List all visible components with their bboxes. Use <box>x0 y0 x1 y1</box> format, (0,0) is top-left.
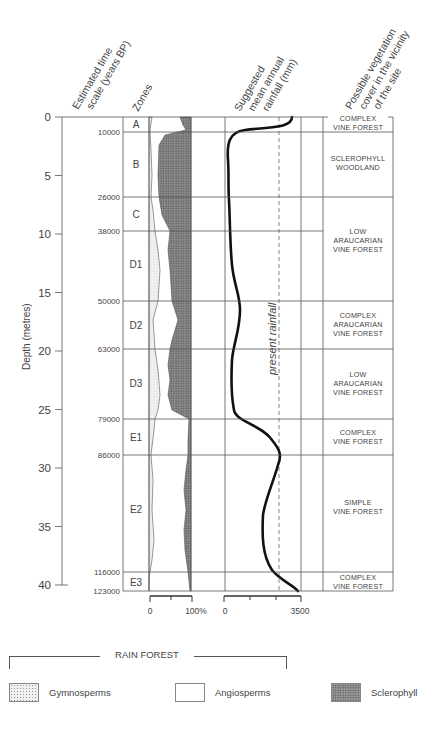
svg-text:5: 5 <box>45 170 51 182</box>
svg-text:79000: 79000 <box>98 415 121 424</box>
svg-text:40: 40 <box>38 579 51 591</box>
rain-forest-title: RAIN FOREST <box>100 649 194 660</box>
legend-item-angiosperms: Angiosperms <box>175 683 270 702</box>
svg-text:SCLEROPHYLL: SCLEROPHYLL <box>331 154 386 163</box>
depth-ticks: 0 5 10 15 20 25 30 35 40 <box>38 111 51 591</box>
svg-text:LOW: LOW <box>350 227 367 236</box>
svg-text:10000: 10000 <box>98 128 121 137</box>
svg-text:38000: 38000 <box>98 227 121 236</box>
svg-text:VINE FOREST: VINE FOREST <box>333 507 384 516</box>
zone-labels: A B C D1 D2 D3 E1 E2 E3 <box>130 119 143 588</box>
svg-text:86000: 86000 <box>98 451 121 460</box>
svg-text:15: 15 <box>38 287 51 299</box>
svg-text:123000: 123000 <box>93 587 120 596</box>
svg-text:ARAUCARIAN: ARAUCARIAN <box>333 320 382 329</box>
svg-text:VINE FOREST: VINE FOREST <box>333 245 384 254</box>
header-time-scale: Estimated time scale (years BP) <box>69 38 132 111</box>
svg-text:VINE FOREST: VINE FOREST <box>333 329 384 338</box>
svg-text:20: 20 <box>38 345 51 357</box>
gymnosperms-swatch <box>9 683 39 702</box>
legend-label: Angiosperms <box>215 687 270 698</box>
svg-text:E3: E3 <box>130 577 143 588</box>
svg-text:63000: 63000 <box>98 345 121 354</box>
rainfall-axis-max: 3500 <box>291 606 310 616</box>
svg-text:35: 35 <box>38 521 51 533</box>
svg-text:B: B <box>133 159 140 170</box>
pollen-scale <box>150 596 192 602</box>
legend-item-sclerophyll: Sclerophyll <box>331 683 417 702</box>
svg-text:A: A <box>133 119 140 130</box>
header-rainfall: Suggested mean annual rainfall (mm) <box>231 54 299 113</box>
svg-text:E2: E2 <box>130 504 143 515</box>
svg-text:COMPLEX: COMPLEX <box>340 114 377 123</box>
pollen-diagram: Estimated time scale (years BP) Zones Su… <box>0 0 437 640</box>
svg-text:E1: E1 <box>130 432 143 443</box>
svg-text:VINE FOREST: VINE FOREST <box>333 123 384 132</box>
depth-axis-label: Depth (metres) <box>21 303 32 370</box>
pollen-axis-min: 0 <box>148 606 153 616</box>
svg-text:VINE FOREST: VINE FOREST <box>333 582 384 591</box>
svg-text:25: 25 <box>38 404 51 416</box>
rainfall-scale <box>224 596 301 602</box>
pollen-axis-max: 100% <box>185 606 207 616</box>
rainfall-axis-min: 0 <box>223 606 228 616</box>
svg-text:COMPLEX: COMPLEX <box>340 311 377 320</box>
legend-label: Sclerophyll <box>371 687 417 698</box>
svg-text:VINE FOREST: VINE FOREST <box>333 388 384 397</box>
pollen-curves <box>149 117 191 591</box>
sclerophyll-swatch <box>331 683 361 702</box>
depth-axis <box>55 117 68 585</box>
svg-text:WOODLAND: WOODLAND <box>336 163 380 172</box>
svg-text:ARAUCARIAN: ARAUCARIAN <box>333 379 382 388</box>
svg-text:C: C <box>132 209 139 220</box>
svg-text:COMPLEX: COMPLEX <box>340 428 377 437</box>
vegetation-labels: COMPLEX VINE FOREST SCLEROPHYLL WOODLAND… <box>328 112 388 591</box>
svg-text:ARAUCARIAN: ARAUCARIAN <box>333 236 382 245</box>
header-zones: Zones <box>129 82 154 113</box>
present-rainfall-label: present rainfall <box>266 302 278 376</box>
header-vegetation: Possible vegetation cover in the vicinit… <box>342 26 411 111</box>
svg-text:VINE FOREST: VINE FOREST <box>333 437 384 446</box>
svg-text:50000: 50000 <box>98 297 121 306</box>
svg-text:10: 10 <box>38 228 51 240</box>
svg-text:30: 30 <box>38 462 51 474</box>
svg-text:0: 0 <box>45 111 51 123</box>
angiosperms-swatch <box>175 683 205 702</box>
svg-text:LOW: LOW <box>350 370 367 379</box>
svg-text:D2: D2 <box>130 320 143 331</box>
time-labels: 10000 26000 38000 50000 63000 79000 8600… <box>93 128 120 596</box>
svg-text:COMPLEX: COMPLEX <box>340 573 377 582</box>
svg-text:D1: D1 <box>130 259 143 270</box>
svg-text:26000: 26000 <box>98 193 121 202</box>
svg-text:D3: D3 <box>130 378 143 389</box>
svg-text:116000: 116000 <box>94 568 121 577</box>
legend-label: Gymnosperms <box>49 687 111 698</box>
rainfall-curve <box>228 117 298 591</box>
svg-text:SIMPLE: SIMPLE <box>344 498 372 507</box>
legend-item-gymnosperms: Gymnosperms <box>9 683 111 702</box>
